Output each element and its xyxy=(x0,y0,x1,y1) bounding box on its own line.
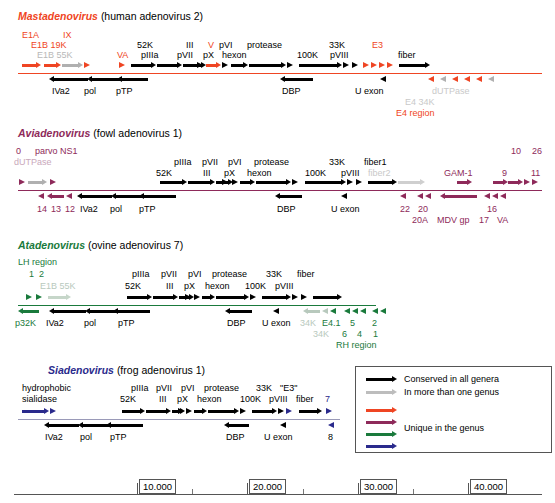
gene-arrow-26 xyxy=(532,179,538,185)
gene-label: 13 xyxy=(51,204,61,214)
gene-label: 20A xyxy=(412,215,428,225)
gene-label: 6 xyxy=(342,329,347,339)
scale-ruler-line xyxy=(14,494,542,495)
scale-tick-major xyxy=(358,483,359,494)
gene-label: pol xyxy=(84,318,96,328)
gene-label: MDV gp xyxy=(437,215,470,225)
gene-arrow-e1b19k xyxy=(44,62,60,69)
gene-arrow-13 xyxy=(48,193,64,200)
genome-axis-aviadenovirus xyxy=(18,190,542,191)
gene-label: pIIIa xyxy=(131,383,149,393)
gene-label: p32K xyxy=(15,318,36,328)
gene-arrow-e4-c xyxy=(464,76,470,82)
gene-label: V xyxy=(208,40,214,50)
gene-label: 34K xyxy=(313,329,329,339)
gene-label: IVa2 xyxy=(80,204,98,214)
gene-arrow-pvii xyxy=(222,179,228,185)
gene-arrow-iva2 xyxy=(78,193,112,200)
gene-arrow-33k xyxy=(343,62,349,68)
gene-label: dUTPase xyxy=(432,86,470,96)
gene-label: protease xyxy=(212,269,247,279)
legend-label-0: Conserved in all genera xyxy=(404,374,499,384)
gene-label: 9 xyxy=(502,168,507,178)
gene-label: 10 xyxy=(511,146,521,156)
gene-label: 52K xyxy=(137,40,153,50)
legend-arrow-mast xyxy=(366,407,396,414)
gene-label: hexon xyxy=(205,281,230,291)
gene-label: pVII xyxy=(161,269,177,279)
gene-label: 34K xyxy=(300,318,316,328)
gene-label: E1B 19K xyxy=(31,40,67,50)
gene-label: pTP xyxy=(116,86,133,96)
gene-label: DBP xyxy=(227,318,246,328)
gene-label: fiber xyxy=(398,50,416,60)
gene-label: U exon xyxy=(355,86,384,96)
gene-label: parvo NS1 xyxy=(35,146,78,156)
gene-label: DBP xyxy=(282,86,301,96)
gene-arrow-pvii xyxy=(197,62,203,68)
gene-arrow-protease xyxy=(287,62,293,68)
gene-arrow-hexon xyxy=(249,62,285,69)
gene-label: III xyxy=(159,394,167,404)
gene-label: III xyxy=(166,281,174,291)
genus-host: (frog adenovirus 1) xyxy=(117,364,205,376)
scale-tick-major xyxy=(468,483,469,494)
gene-label: 100K xyxy=(297,50,318,60)
gene-arrow-e41 xyxy=(330,308,336,314)
genus-title-aviadenovirus: Aviadenovirus (fowl adenovirus 1) xyxy=(18,127,182,139)
gene-arrow-dbp xyxy=(281,76,313,83)
gene-label: III xyxy=(186,40,194,50)
gene-arrow-1b xyxy=(380,308,386,314)
gene-label: fiber2 xyxy=(368,168,391,178)
gene-label: pVIII xyxy=(341,168,360,178)
gene-arrow-parvo-ns1 xyxy=(50,179,56,185)
gene-arrow-dbp xyxy=(225,422,249,429)
gene-label: 22 xyxy=(400,204,410,214)
gene-arrow-20a xyxy=(417,193,423,199)
gene-label: 52K xyxy=(125,281,141,291)
gene-label: protease xyxy=(254,157,289,167)
gene-arrow-0 xyxy=(19,179,25,185)
gene-label: 33K xyxy=(329,40,345,50)
gene-label: DBP xyxy=(277,204,296,214)
legend-label-1: In more than one genus xyxy=(404,387,499,397)
gene-arrow-fiber xyxy=(299,408,321,415)
gene-arrow-14 xyxy=(38,193,44,199)
gene-label: pTP xyxy=(110,432,127,442)
gene-label: pVII xyxy=(177,50,193,60)
gene-arrow-iva2 xyxy=(50,308,86,315)
genome-axis-siadenovirus xyxy=(18,419,340,420)
scale-label: 10.000 xyxy=(139,479,176,494)
gene-label: E1A xyxy=(22,30,39,40)
gene-arrow-e1a xyxy=(22,62,40,69)
genus-name: Mastadenovirus xyxy=(18,10,98,22)
scale-tick-minor xyxy=(303,489,304,494)
gene-arrow-100k xyxy=(305,179,345,186)
gene-label: hydrophobic xyxy=(22,383,71,393)
gene-label: 4 xyxy=(357,329,362,339)
gene-label: pVII xyxy=(156,383,172,393)
gene-arrow-mdv-gp xyxy=(441,193,477,200)
scale-label: 40.000 xyxy=(470,479,507,494)
gene-label: 52K xyxy=(156,168,172,178)
gene-arrow-52k xyxy=(131,62,155,69)
gene-arrow-pvii xyxy=(178,408,184,414)
gene-arrow-e3-b xyxy=(371,62,377,68)
gene-arrow-uexon xyxy=(341,193,347,199)
gene-arrow-e4-b xyxy=(452,76,458,82)
gene-label: 33K xyxy=(256,383,272,393)
gene-arrow-fiber xyxy=(399,62,429,69)
gene-arrow-hydrophobic-sialidase xyxy=(22,408,48,415)
gene-arrow-33k xyxy=(278,408,284,414)
gene-arrow-pvi xyxy=(240,179,254,186)
genus-title-mastadenovirus: Mastadenovirus (human adenovirus 2) xyxy=(18,10,203,22)
gene-arrow-p32k xyxy=(19,308,39,315)
gene-arrow-e3-a xyxy=(363,62,369,68)
gene-label: 0 xyxy=(16,146,21,156)
gene-arrow-20 xyxy=(425,193,431,199)
gene-arrow-px xyxy=(186,408,192,414)
gene-label: U exon xyxy=(331,204,360,214)
gene-arrow-e1b55k xyxy=(62,62,82,69)
gene-label: pIIIa xyxy=(141,50,159,60)
gene-arrow-33k xyxy=(292,294,298,300)
